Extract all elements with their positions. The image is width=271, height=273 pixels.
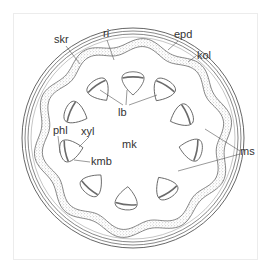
vascular-bundle (122, 72, 144, 95)
bundle-outline (77, 168, 109, 200)
vascular-bundle (58, 137, 85, 163)
diagram-canvas: ri skr epd kol lb phl xyl mk kmb ms (0, 0, 271, 273)
label-ms: ms (240, 145, 255, 157)
leader-xyl (79, 137, 89, 147)
leader-epd (168, 41, 178, 50)
leader-kmb (74, 160, 90, 162)
vascular-bundle (177, 136, 204, 162)
label-skr: skr (54, 33, 69, 45)
bundle-outline (114, 186, 139, 211)
label-ri: ri (103, 27, 109, 39)
vascular-bundle (147, 75, 178, 106)
label-lb: lb (118, 106, 127, 118)
vascular-bundle (77, 168, 109, 200)
bundle-outline (166, 102, 196, 132)
vascular-bundle (114, 186, 139, 211)
label-mk: mk (122, 138, 137, 150)
stem-cross-section-diagram: ri skr epd kol lb phl xyl mk kmb ms (0, 0, 271, 273)
bundle-outline (177, 136, 204, 162)
vascular-bundle (84, 75, 116, 107)
label-xyl: xyl (81, 125, 94, 137)
vascular-bundle (166, 102, 196, 132)
leader-lb-right (129, 95, 157, 105)
leader-lb-center (126, 90, 127, 105)
label-epd: epd (174, 28, 192, 40)
label-phl: phl (53, 124, 68, 136)
label-kmb: kmb (91, 155, 112, 167)
bundle-outline (122, 72, 144, 95)
bundle-outline (58, 137, 85, 163)
label-kol: kol (197, 49, 211, 61)
vascular-bundle (149, 171, 180, 203)
